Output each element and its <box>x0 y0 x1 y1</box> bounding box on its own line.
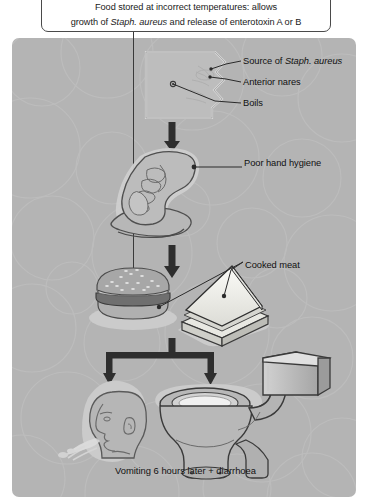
caption-line-2: growth of Staph. aureus and release of e… <box>41 15 331 30</box>
label-source-prefix: Source of <box>243 56 285 66</box>
caption-connector-line <box>133 30 134 288</box>
outcome-text: Vomiting 6 hours later + diarrhoea <box>0 465 371 476</box>
diagram-panel <box>12 38 356 497</box>
figure-root: Food stored at incorrect temperatures: a… <box>0 0 371 499</box>
label-source-italic: Staph. aureus <box>285 56 342 66</box>
label-anterior-nares: Anterior nares <box>243 77 301 87</box>
caption-line-2-b: and release of enterotoxin A or B <box>167 17 301 27</box>
caption-line-2-italic: Staph. aureus <box>111 17 168 27</box>
label-cooked-meat: Cooked meat <box>245 260 300 270</box>
panel-texture <box>12 38 356 497</box>
caption-line-1: Food stored at incorrect temperatures: a… <box>41 0 331 15</box>
label-boils: Boils <box>243 98 263 108</box>
caption-line-2-a: growth of <box>71 17 111 27</box>
caption-text: Food stored at incorrect temperatures: a… <box>41 0 331 29</box>
label-source-of-staph-aureus: Source of Staph. aureus <box>243 56 342 66</box>
label-poor-hand-hygiene: Poor hand hygiene <box>244 158 321 168</box>
